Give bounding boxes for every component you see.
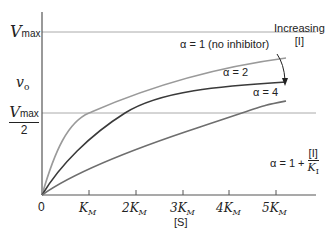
v0-label: vo bbox=[16, 74, 29, 92]
vmax-label: Vmax bbox=[10, 22, 40, 41]
curve-alpha-4 bbox=[42, 101, 286, 195]
curve-alpha-2-label: α = 2 bbox=[223, 66, 248, 78]
x-axis-label: [S] bbox=[174, 216, 187, 228]
curve-alpha-1-label: α = 1 (no inhibitor) bbox=[180, 38, 269, 50]
vmax-half-label: Vmax 2 bbox=[9, 104, 39, 137]
alpha-formula: α = 1 + [I] KI bbox=[270, 147, 319, 179]
curve-alpha-4-label: α = 4 bbox=[253, 86, 278, 98]
increasing-label: Increasing [I] bbox=[274, 22, 325, 48]
origin-label: 0 bbox=[38, 200, 45, 214]
x-ticks bbox=[89, 190, 276, 195]
